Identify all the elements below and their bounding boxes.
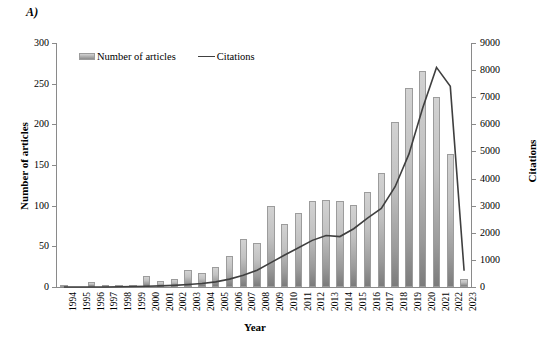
x-tick-label-2007: 2007 bbox=[247, 292, 257, 311]
x-tick-label-2017: 2017 bbox=[385, 292, 395, 311]
y-axis-right-tick-label: 3000 bbox=[480, 201, 516, 211]
x-axis-title: Year bbox=[0, 321, 510, 333]
y-axis-left-tick-label: 50 bbox=[15, 241, 49, 251]
x-tick-label-1999: 1999 bbox=[137, 292, 147, 311]
y-axis-left-tick bbox=[52, 84, 56, 85]
y-axis-right-tick-label: 2000 bbox=[480, 228, 516, 238]
y-axis-right-tick bbox=[472, 151, 476, 152]
x-tick-label-2023: 2023 bbox=[468, 292, 478, 311]
x-tick-label-2020: 2020 bbox=[427, 292, 437, 311]
x-tick-label-1996: 1996 bbox=[96, 292, 106, 311]
x-tick-label-2004: 2004 bbox=[206, 292, 216, 311]
y-axis-right-tick-label: 9000 bbox=[480, 38, 516, 48]
plot-area: 050100150200250300 010002000300040005000… bbox=[57, 43, 471, 287]
y-axis-left-tick bbox=[52, 246, 56, 247]
x-tick-label-2021: 2021 bbox=[441, 292, 451, 311]
x-tick-label-2008: 2008 bbox=[261, 292, 271, 311]
y-axis-left-tick-label: 250 bbox=[15, 79, 49, 89]
figure-panel-a: A) Number of articles Citations Year Num… bbox=[0, 0, 559, 354]
line-series-citations bbox=[57, 43, 471, 287]
y-axis-right-tick bbox=[472, 260, 476, 261]
x-tick-label-2011: 2011 bbox=[303, 292, 313, 311]
y-axis-right-tick bbox=[472, 179, 476, 180]
y-axis-left-tick bbox=[52, 206, 56, 207]
x-tick-label-1997: 1997 bbox=[109, 292, 119, 311]
y-axis-left-tick-label: 300 bbox=[15, 38, 49, 48]
y-axis-right-tick bbox=[472, 233, 476, 234]
y-axis-left-tick-label: 200 bbox=[15, 119, 49, 129]
x-tick-label-2006: 2006 bbox=[234, 292, 244, 311]
x-tick-label-2009: 2009 bbox=[275, 292, 285, 311]
x-tick-label-2014: 2014 bbox=[344, 292, 354, 311]
x-tick-label-2018: 2018 bbox=[399, 292, 409, 311]
x-tick-label-2015: 2015 bbox=[358, 292, 368, 311]
y-axis-right-title: Citations bbox=[526, 106, 538, 216]
x-tick-label-1995: 1995 bbox=[82, 292, 92, 311]
y-axis-right-tick bbox=[472, 287, 476, 288]
y-axis-right-tick bbox=[472, 70, 476, 71]
x-tick-label-2000: 2000 bbox=[151, 292, 161, 311]
x-tick-label-2012: 2012 bbox=[316, 292, 326, 311]
y-axis-right-tick-label: 1000 bbox=[480, 255, 516, 265]
y-axis-right-line bbox=[471, 43, 472, 287]
y-axis-right-tick-label: 0 bbox=[480, 282, 516, 292]
y-axis-right-tick-label: 8000 bbox=[480, 65, 516, 75]
y-axis-left-tick-label: 100 bbox=[15, 201, 49, 211]
y-axis-left-tick bbox=[52, 124, 56, 125]
y-axis-right-tick bbox=[472, 97, 476, 98]
x-tick-label-1998: 1998 bbox=[123, 292, 133, 311]
x-tick-label-2001: 2001 bbox=[165, 292, 175, 311]
y-axis-right-tick-label: 5000 bbox=[480, 146, 516, 156]
x-tick-label-2019: 2019 bbox=[413, 292, 423, 311]
y-axis-left-tick-label: 150 bbox=[15, 160, 49, 170]
y-axis-right-tick-label: 6000 bbox=[480, 119, 516, 129]
y-axis-right-tick-label: 4000 bbox=[480, 174, 516, 184]
y-axis-right-tick bbox=[472, 206, 476, 207]
y-axis-right-tick-label: 7000 bbox=[480, 92, 516, 102]
y-axis-left-tick bbox=[52, 287, 56, 288]
y-axis-left-tick-label: 0 bbox=[15, 282, 49, 292]
x-tick-label-1994: 1994 bbox=[68, 292, 78, 311]
x-tick-label-2003: 2003 bbox=[192, 292, 202, 311]
x-tick-label-2002: 2002 bbox=[178, 292, 188, 311]
panel-label: A) bbox=[26, 5, 39, 20]
x-tick-label-2016: 2016 bbox=[372, 292, 382, 311]
y-axis-right-tick bbox=[472, 43, 476, 44]
x-tick-label-2010: 2010 bbox=[289, 292, 299, 311]
x-tick-label-2005: 2005 bbox=[220, 292, 230, 311]
y-axis-right-tick bbox=[472, 124, 476, 125]
x-tick-label-2022: 2022 bbox=[454, 292, 464, 311]
y-axis-left-tick bbox=[52, 43, 56, 44]
y-axis-left-tick bbox=[52, 165, 56, 166]
x-tick-label-2013: 2013 bbox=[330, 292, 340, 311]
